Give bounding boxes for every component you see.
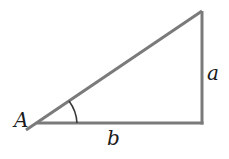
hypotenuse-line — [26, 11, 202, 130]
right-triangle-diagram: A a b — [0, 0, 229, 159]
side-label-a: a — [207, 61, 219, 85]
angle-arc — [69, 101, 77, 123]
side-label-b: b — [107, 126, 120, 150]
angle-label-A: A — [12, 108, 28, 132]
